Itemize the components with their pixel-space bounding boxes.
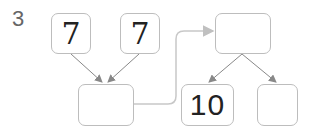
box-top-right-answer[interactable] <box>215 13 271 54</box>
arrow-left-to-sum <box>71 54 102 82</box>
box-bottom-middle: 10 <box>181 84 234 126</box>
arrow-split-right <box>242 54 276 82</box>
arrow-middle-to-sum <box>108 54 139 82</box>
box-sum-answer[interactable] <box>78 84 134 126</box>
arrow-split-left <box>209 54 242 82</box>
box-top-middle: 7 <box>120 13 160 54</box>
box-top-left: 7 <box>51 13 91 54</box>
problem-number: 3 <box>12 6 24 32</box>
box-bottom-right-answer[interactable] <box>257 84 298 126</box>
